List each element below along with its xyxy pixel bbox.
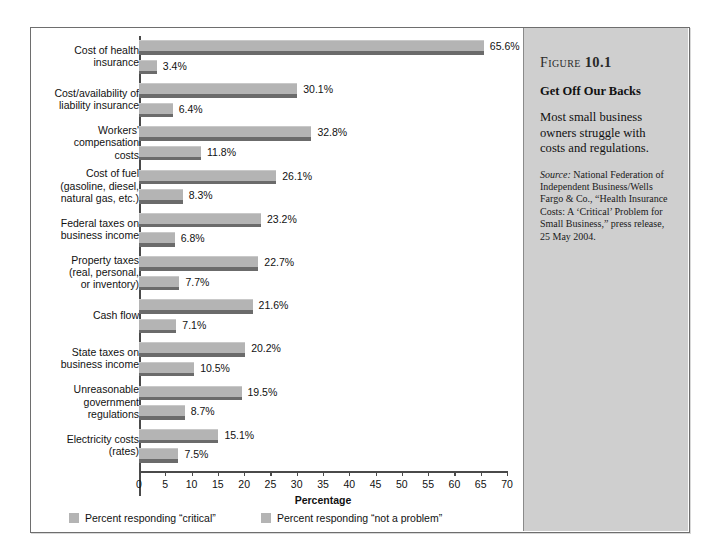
- x-axis-tick: [323, 471, 324, 476]
- bar-group-item: 8.7%: [139, 405, 507, 420]
- x-axis-tick-label: 35: [317, 478, 329, 490]
- x-axis-tick: [297, 471, 298, 476]
- bar-group-item: 6.8%: [139, 232, 507, 247]
- figure-number-heading: Figure 10.1: [540, 54, 673, 71]
- bar-group-item: 7.1%: [139, 319, 507, 334]
- bar-shadow: [139, 353, 245, 357]
- bar-value-label: 3.4%: [163, 60, 187, 72]
- bar-group-item: 26.1%: [139, 170, 507, 185]
- bar-value-label: 26.1%: [282, 170, 312, 182]
- category-label-line: Cost of health: [35, 44, 139, 56]
- category-label-line: liability insurance: [35, 99, 139, 111]
- category-label-line: business income: [35, 358, 139, 370]
- x-axis-tick-label: 60: [449, 478, 461, 490]
- category-label: Cost of healthinsurance: [35, 44, 139, 68]
- bar-shadow: [139, 267, 258, 271]
- x-axis-tick-label: 45: [370, 478, 382, 490]
- figure-word: Figure: [540, 55, 581, 70]
- category-label: Unreasonablegovernmentregulations: [35, 383, 139, 420]
- figure-source: Source: National Federation of Independe…: [540, 169, 673, 243]
- bar-value-label: 6.8%: [181, 232, 205, 244]
- category-label-line: natural gas, etc.): [35, 192, 139, 204]
- category-label: Property taxes(real, personal,or invento…: [35, 254, 139, 291]
- category-label: Cash flow: [35, 309, 139, 321]
- category-label: Cost/availability ofliability insurance: [35, 87, 139, 111]
- bar-group-item: 11.8%: [139, 146, 507, 161]
- legend-item-critical: Percent responding “critical”: [69, 512, 216, 524]
- category-label-line: Electricity costs: [35, 433, 139, 445]
- bar-shadow: [139, 71, 157, 75]
- bar-value-label: 22.7%: [264, 256, 294, 268]
- bar-group-item: 22.7%: [139, 256, 507, 271]
- category-label-line: Cost of fuel: [35, 167, 139, 179]
- legend: Percent responding “critical” Percent re…: [45, 512, 523, 530]
- x-axis-tick: [244, 471, 245, 476]
- bar-value-label: 11.8%: [207, 146, 236, 158]
- bar-value-label: 65.6%: [490, 40, 520, 52]
- figure-number: 10.1: [585, 54, 612, 70]
- x-axis-tick-label: 55: [422, 478, 434, 490]
- x-axis-tick-label: 15: [212, 478, 224, 490]
- category-label-line: or inventory): [35, 278, 139, 290]
- bar-shadow: [139, 157, 201, 161]
- category-label-line: Unreasonable: [35, 383, 139, 395]
- figure-title: Get Off Our Backs: [540, 84, 673, 99]
- category-label: Electricity costs(rates): [35, 433, 139, 457]
- category-label-line: insurance: [35, 56, 139, 68]
- bar-shadow: [139, 440, 218, 444]
- category-label-line: Cash flow: [35, 309, 139, 321]
- bar-shadow: [139, 114, 173, 118]
- bar-shadow: [139, 224, 261, 228]
- x-axis-tick: [192, 471, 193, 476]
- bar-group-item: 65.6%: [139, 40, 507, 55]
- x-axis-tick: [349, 471, 350, 476]
- bar-value-label: 7.5%: [184, 448, 208, 460]
- bar-shadow: [139, 51, 484, 55]
- x-axis-tick-label: 70: [501, 478, 513, 490]
- bar-value-label: 21.6%: [259, 299, 289, 311]
- bar-shadow: [139, 243, 175, 247]
- bar-value-label: 7.1%: [182, 319, 206, 331]
- x-axis-tick-label: 50: [396, 478, 408, 490]
- x-axis-tick-label: 20: [238, 478, 250, 490]
- x-axis-tick: [270, 471, 271, 476]
- bar-value-label: 10.5%: [200, 362, 230, 374]
- bar-value-label: 7.7%: [185, 276, 209, 288]
- category-label-line: State taxes on: [35, 346, 139, 358]
- category-label-line: business income: [35, 229, 139, 241]
- category-label: Workers'compensationcosts: [35, 124, 139, 161]
- x-axis-tick: [507, 471, 508, 476]
- bar-shadow: [139, 181, 276, 185]
- bar-shadow: [139, 330, 176, 334]
- bar-value-label: 23.2%: [267, 213, 297, 225]
- bar-group-item: 7.7%: [139, 276, 507, 291]
- legend-item-not-a-problem: Percent responding “not a problem”: [261, 512, 442, 524]
- bar-shadow: [139, 459, 178, 463]
- x-axis-tick-label: 25: [265, 478, 277, 490]
- bar-group-item: 23.2%: [139, 213, 507, 228]
- x-axis-title: Percentage: [139, 494, 507, 506]
- legend-label-not-a-problem: Percent responding “not a problem”: [277, 512, 442, 524]
- bar-group-item: 8.3%: [139, 189, 507, 204]
- x-axis-tick-label: 10: [186, 478, 198, 490]
- figure-description: Most small business owners struggle with…: [540, 110, 673, 157]
- bar-shadow: [139, 200, 183, 204]
- bar-shadow: [139, 287, 179, 291]
- bar-group-item: 7.5%: [139, 448, 507, 463]
- bar-group-item: 19.5%: [139, 386, 507, 401]
- bar-value-label: 8.3%: [189, 189, 213, 201]
- bar-group-item: 30.1%: [139, 83, 507, 98]
- category-label-line: costs: [35, 149, 139, 161]
- category-label-line: compensation: [35, 136, 139, 148]
- bar-value-label: 30.1%: [303, 83, 333, 95]
- x-axis-tick: [165, 471, 166, 476]
- x-axis-tick-label: 40: [343, 478, 355, 490]
- category-label-line: (real, personal,: [35, 266, 139, 278]
- x-axis-tick: [454, 471, 455, 476]
- bar-group-item: 32.8%: [139, 126, 507, 141]
- category-label: Cost of fuel(gasoline, diesel,natural ga…: [35, 167, 139, 204]
- chart-panel: Cost of healthinsuranceCost/availability…: [31, 28, 523, 531]
- category-label-line: Property taxes: [35, 254, 139, 266]
- x-axis-tick-label: 65: [475, 478, 487, 490]
- category-label-line: Workers': [35, 124, 139, 136]
